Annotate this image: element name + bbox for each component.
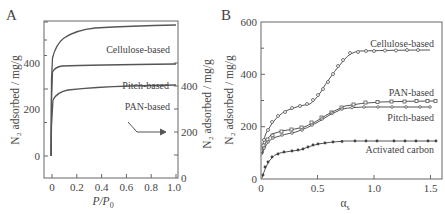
xtick-a-0: 0	[49, 181, 55, 193]
series-label-pan-a: PAN-based	[125, 101, 170, 112]
panel-label-b: B	[221, 7, 231, 23]
ytick-left-a-0: 0	[35, 150, 41, 162]
x-axis-ticks-a	[52, 174, 176, 178]
right-axis-arrow-icon	[128, 122, 166, 135]
xtick-a-0.6: 0.6	[120, 181, 134, 193]
ylabel-right-a: N₂ adsorbed / mg/g	[201, 59, 214, 149]
curve-pan-a	[51, 85, 176, 156]
ytick-b-200: 200	[241, 120, 258, 132]
panel-label-a: A	[6, 7, 17, 23]
xtick-b-1.5: 1.5	[424, 182, 438, 194]
series-label-cellulose-b: Cellulose-based	[370, 38, 434, 49]
left-axis-ticks-a	[44, 22, 48, 156]
xtick-b-1.0: 1.0	[367, 182, 381, 194]
ytick-right-a-0: 0	[181, 172, 187, 184]
xtick-a-1.0: 1.0	[167, 181, 181, 193]
panel-a: A 0 200 400 0 200 400	[6, 7, 214, 210]
series-label-activated-carbon-b: Activated carbon	[365, 144, 434, 155]
ytick-right-a-200: 200	[181, 126, 198, 138]
series-label-pitch-b: Pitch-based	[387, 112, 434, 123]
xtick-a-0.8: 0.8	[144, 181, 158, 193]
ytick-right-a-400: 400	[181, 80, 198, 92]
xlabel-b: αs	[340, 197, 349, 212]
x-axis-ticks-b	[318, 175, 431, 179]
ytick-b-0: 0	[252, 173, 258, 185]
ytick-left-a-400: 400	[24, 57, 41, 69]
ylabel-b: N₂ adsorbed / mg/g	[223, 55, 236, 145]
figure: A 0 200 400 0 200 400	[0, 0, 445, 214]
series-label-pan-b: PAN-based	[389, 87, 434, 98]
series-label-pitch-a: Pitch-based	[122, 80, 169, 91]
ylabel-left-a: N₂ adsorbed / mg/g	[9, 55, 22, 145]
panel-b: B 0 200 400 600 0 0.5 1.0 1.5 αs N₂ adso…	[221, 7, 442, 212]
ytick-left-a-200: 200	[24, 103, 41, 115]
xtick-a-0.2: 0.2	[70, 181, 84, 193]
xtick-b-0: 0	[258, 182, 264, 194]
series-label-cellulose-a: Cellulose-based	[106, 44, 170, 55]
xlabel-a: P/P0	[91, 195, 113, 210]
ytick-b-400: 400	[241, 68, 258, 80]
xtick-a-0.4: 0.4	[95, 181, 109, 193]
ytick-b-600: 600	[241, 16, 258, 28]
xtick-b-0.5: 0.5	[311, 182, 325, 194]
right-axis-ticks-a	[174, 63, 178, 155]
